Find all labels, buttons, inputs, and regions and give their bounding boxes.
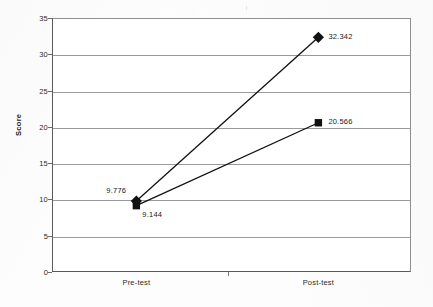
y-axis-tick-label: 20 [39,122,48,131]
gridline [53,55,410,56]
y-axis-tick-label: 10 [39,195,48,204]
scan-artifact [246,6,247,10]
y-axis-tick [48,272,52,273]
x-axis-tick-label: Pre-test [122,278,150,287]
y-axis-tick-label: 25 [39,86,48,95]
gridline [53,237,410,238]
data-label-diamond-pre: 9.776 [106,186,126,195]
line-chart: 05101520253035 Score Pre-testPost-test 9… [0,0,433,307]
x-axis-tick-label: Post-test [303,278,334,287]
gridline [53,200,410,201]
y-axis-tick [48,199,52,200]
gridline [53,92,410,93]
gridline [53,128,410,129]
data-label-diamond-post: 32.342 [328,32,352,41]
y-axis-tick [48,236,52,237]
y-axis-title: Score [14,114,23,136]
y-axis-tick-labels: 05101520253035 [30,18,48,272]
y-axis-tick [48,163,52,164]
gridline [53,164,410,165]
x-axis-tick [228,272,229,276]
data-label-square-post: 20.566 [328,117,352,126]
y-axis-tick [48,18,52,19]
y-axis-tick-label: 15 [39,159,48,168]
gridline [53,19,410,20]
y-axis-tick [48,91,52,92]
data-label-square-pre: 9.144 [142,210,162,219]
y-axis-tick [48,127,52,128]
y-axis-tick-label: 30 [39,50,48,59]
plot-area [52,18,411,272]
y-axis-tick-label: 35 [39,14,48,23]
y-axis-tick [48,54,52,55]
